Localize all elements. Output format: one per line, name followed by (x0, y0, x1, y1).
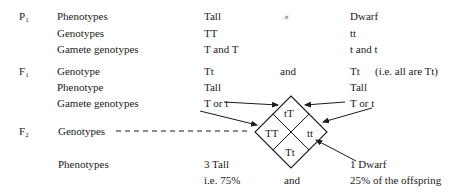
f2-and: and (284, 174, 300, 186)
p1-gametes-dwarf: t and t (350, 43, 378, 55)
generation-p1: P1 (19, 10, 29, 24)
f1-phenotype-right: Tall (350, 81, 367, 93)
p1-genotypes-label: Genotypes (57, 27, 104, 39)
punnett-cell-left: TT (265, 127, 278, 139)
generation-f2: F2 (19, 125, 29, 139)
f1-and: and (280, 65, 296, 77)
p1-genotype-dwarf: tt (350, 27, 356, 39)
f1-gametes-right: T or t (350, 97, 374, 109)
generation-f1: F1 (19, 65, 29, 79)
arrow-left-bottom (200, 111, 257, 125)
f2-genotypes-label: Genotypes (58, 125, 105, 137)
p1-phenotype-tall: Tall (204, 10, 221, 22)
f1-gametes-label: Gamete genotypes (57, 97, 139, 109)
f1-note: (i.e. all are Tt) (375, 65, 438, 77)
f2-dwarf-count: 1 Dwarf (350, 158, 386, 170)
p1-gametes-label: Gamete genotypes (57, 43, 139, 55)
f2-phenotypes-label: Phenotypes (58, 158, 109, 170)
arrow-left-top (224, 102, 278, 105)
punnett-cell-right: tt (307, 127, 313, 139)
cross-symbol: × (284, 11, 289, 23)
p1-genotype-tall: TT (204, 27, 217, 39)
arrow-right-top (305, 102, 345, 105)
p1-phenotype-dwarf: Dwarf (350, 10, 378, 22)
f2-tall-count: 3 Tall (204, 158, 229, 170)
arrow-right-bottom (323, 108, 372, 122)
punnett-cell-top: tT (284, 107, 294, 119)
p1-gametes-tall: T and T (204, 43, 238, 55)
p1-phenotypes-label: Phenotypes (57, 10, 108, 22)
f2-tall-percent: i.e. 75% (204, 174, 240, 186)
f1-genotype-right: Tt (350, 65, 360, 77)
f1-phenotype-left: Tall (204, 81, 221, 93)
f1-gametes-left: T or t (204, 97, 228, 109)
punnett-cell-bottom: Tt (285, 146, 295, 158)
f1-genotype-left: Tt (204, 65, 214, 77)
f1-phenotype-label: Phenotype (57, 81, 103, 93)
f2-dwarf-percent: 25% of the offspring (350, 174, 441, 186)
f1-genotype-label: Genotype (57, 65, 100, 77)
